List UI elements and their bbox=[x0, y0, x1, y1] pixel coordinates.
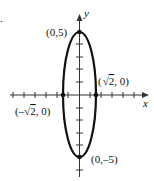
problem-marker: . bbox=[0, 12, 3, 24]
point-bottom-label: (0,–5) bbox=[91, 153, 118, 166]
y-axis-arrow-icon bbox=[77, 14, 83, 21]
point-top-label: (0,5) bbox=[46, 26, 67, 39]
point-top bbox=[77, 30, 82, 35]
point-right-label: (√2, 0) bbox=[98, 75, 129, 88]
y-axis-label: y bbox=[83, 7, 89, 19]
svg-text:(√2, 0): (√2, 0) bbox=[98, 75, 129, 88]
ellipse-graph: . x bbox=[0, 0, 154, 181]
point-left bbox=[61, 93, 66, 98]
point-bottom bbox=[77, 155, 82, 160]
point-right bbox=[94, 93, 99, 98]
point-left-label: (–√2, 0) bbox=[15, 105, 51, 118]
svg-text:(–√2, 0): (–√2, 0) bbox=[15, 105, 51, 118]
x-axis-label: x bbox=[142, 97, 148, 109]
